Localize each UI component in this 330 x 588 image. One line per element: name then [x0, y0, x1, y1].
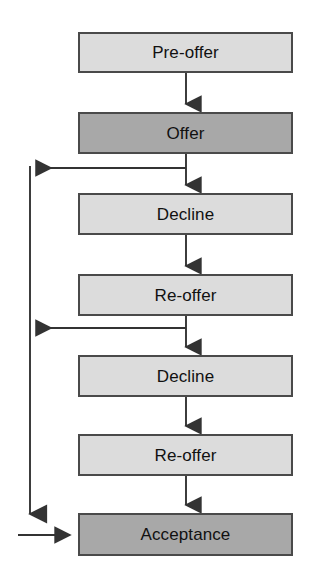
node-re-offer-2-label: Re-offer — [155, 447, 217, 464]
node-re-offer-1[interactable]: Re-offer — [78, 274, 293, 316]
node-acceptance-label: Acceptance — [141, 526, 231, 543]
node-re-offer-1-label: Re-offer — [155, 287, 217, 304]
node-offer-label: Offer — [167, 125, 205, 142]
node-re-offer-2[interactable]: Re-offer — [78, 434, 293, 476]
node-decline-2-label: Decline — [157, 368, 214, 385]
flowchart-diagram: Pre-offer Offer Decline Re-offer Decline… — [0, 0, 330, 588]
node-offer[interactable]: Offer — [78, 112, 293, 154]
node-pre-offer-label: Pre-offer — [152, 44, 219, 61]
node-acceptance[interactable]: Acceptance — [78, 513, 293, 556]
node-decline-1-label: Decline — [157, 206, 214, 223]
node-decline-2[interactable]: Decline — [78, 355, 293, 397]
node-pre-offer[interactable]: Pre-offer — [78, 32, 293, 73]
node-decline-1[interactable]: Decline — [78, 193, 293, 235]
